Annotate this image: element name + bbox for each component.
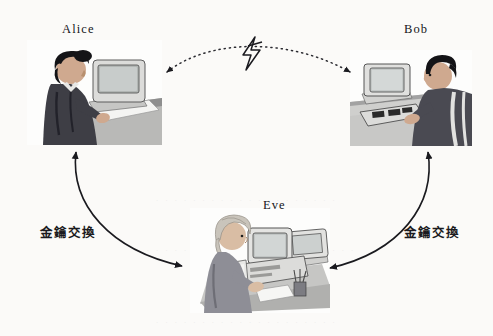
- arrow-alice-bob-dotted: [167, 47, 350, 73]
- node-label-eve: Eve: [263, 198, 286, 213]
- node-label-alice: Alice: [62, 22, 95, 37]
- bleed-text-row: · · · · · · · · · · · · · · · · · · · ·: [0, 196, 493, 205]
- arrow-alice-eve: [75, 152, 182, 266]
- alice-illustration: [27, 40, 162, 145]
- edge-label-bob-eve: 金鑰交換: [404, 222, 460, 241]
- bob-scene-graphic: [350, 50, 472, 146]
- arrow-bob-eve: [330, 152, 429, 268]
- mitm-key-exchange-diagram: · · · · · · · · · · · · · · · · · · · · …: [0, 0, 493, 336]
- eve-illustration: [190, 208, 330, 313]
- edge-label-alice-eve: 金鑰交換: [40, 222, 96, 241]
- lightning-bolt-icon: [243, 37, 262, 70]
- eve-scene-graphic: [190, 208, 330, 313]
- bob-illustration: [350, 50, 472, 146]
- alice-scene-graphic: [27, 40, 162, 145]
- node-label-bob: Bob: [404, 22, 428, 37]
- bleed-text-row: · · · · · · · · · · · · · · · · · · · ·: [0, 318, 493, 327]
